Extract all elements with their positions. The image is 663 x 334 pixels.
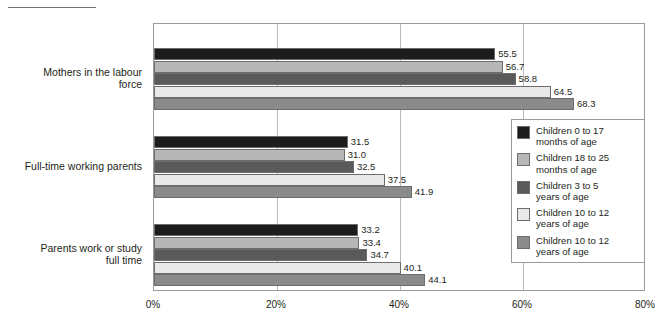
header-rule [8, 7, 96, 8]
bar-value-label: 55.5 [495, 49, 517, 59]
category-label: Mothers in the labourforce [2, 66, 142, 91]
bar-row: 40.1 [154, 262, 644, 274]
category-label-line: Parents work or study [2, 242, 142, 255]
bar-row: 44.1 [154, 274, 644, 286]
x-axis-tick-label: 40% [389, 299, 409, 310]
legend-label-line: Children 3 to 5 [536, 180, 598, 191]
bar-row: 58.8 [154, 73, 644, 85]
bar[interactable] [154, 161, 354, 173]
bar-value-label: 44.1 [425, 275, 447, 285]
bar[interactable] [154, 48, 495, 60]
category-label: Full-time working parents [2, 160, 142, 173]
bar-row: 64.5 [154, 86, 644, 98]
legend-label-line: months of age [536, 136, 604, 147]
bar-value-label: 33.2 [358, 225, 380, 235]
bar-value-label: 40.1 [401, 263, 423, 273]
legend-swatch-icon [517, 208, 530, 221]
legend-swatch-icon [517, 126, 530, 139]
legend-label: Children 18 to 25months of age [536, 152, 609, 174]
legend-label-line: Children 0 to 17 [536, 125, 604, 136]
legend-label-line: Children 10 to 12 [536, 235, 609, 246]
legend-item[interactable]: Children 10 to 12years of age [517, 207, 640, 229]
bar-value-label: 37.5 [385, 175, 407, 185]
category-label: Parents work or studyfull time [2, 242, 142, 267]
bar[interactable] [154, 224, 358, 236]
legend-label-line: months of age [536, 164, 609, 175]
category-label-line: Full-time working parents [2, 160, 142, 173]
x-axis: 0%20%40%60%80% [153, 293, 645, 317]
legend-item[interactable]: Children 0 to 17months of age [517, 125, 640, 147]
bar[interactable] [154, 174, 385, 186]
bar-value-label: 31.5 [348, 137, 370, 147]
legend-swatch-icon [517, 181, 530, 194]
legend-item[interactable]: Children 3 to 5years of age [517, 180, 640, 202]
bar[interactable] [154, 249, 367, 261]
bar[interactable] [154, 61, 503, 73]
legend-label-line: years of age [536, 246, 609, 257]
x-axis-tick-label: 80% [635, 299, 655, 310]
bar[interactable] [154, 86, 551, 98]
bar[interactable] [154, 149, 345, 161]
bar-value-label: 64.5 [551, 87, 573, 97]
legend-label-line: Children 10 to 12 [536, 207, 609, 218]
bar-value-label: 58.8 [516, 74, 538, 84]
legend-swatch-icon [517, 236, 530, 249]
bar-value-label: 31.0 [345, 150, 367, 160]
bar-value-label: 68.3 [574, 99, 596, 109]
x-axis-tick-label: 0% [146, 299, 160, 310]
category-label-line: force [2, 78, 142, 91]
bar[interactable] [154, 237, 359, 249]
legend-label: Children 10 to 12years of age [536, 235, 609, 257]
bar[interactable] [154, 274, 425, 286]
legend-label-line: Children 18 to 25 [536, 152, 609, 163]
bar-row: 56.7 [154, 61, 644, 73]
bar-row: 55.5 [154, 48, 644, 60]
bar[interactable] [154, 98, 574, 110]
legend-item[interactable]: Children 10 to 12years of age [517, 235, 640, 257]
x-axis-tick-label: 60% [512, 299, 532, 310]
category-label-line: full time [2, 254, 142, 267]
bar-value-label: 56.7 [503, 62, 525, 72]
legend: Children 0 to 17months of ageChildren 18… [511, 119, 645, 263]
bar[interactable] [154, 186, 412, 198]
bar[interactable] [154, 262, 401, 274]
bar-value-label: 32.5 [354, 162, 376, 172]
category-label-line: Mothers in the labour [2, 66, 142, 79]
legend-label-line: years of age [536, 218, 609, 229]
bar-value-label: 41.9 [412, 187, 434, 197]
legend-label: Children 10 to 12years of age [536, 207, 609, 229]
x-axis-tick-label: 20% [266, 299, 286, 310]
bar-group: 55.556.758.864.568.3 [154, 48, 644, 110]
legend-label: Children 3 to 5years of age [536, 180, 598, 202]
legend-label-line: years of age [536, 191, 598, 202]
legend-item[interactable]: Children 18 to 25months of age [517, 152, 640, 174]
bar-row: 68.3 [154, 98, 644, 110]
bar-value-label: 33.4 [359, 238, 381, 248]
bar-value-label: 34.7 [367, 250, 389, 260]
legend-label: Children 0 to 17months of age [536, 125, 604, 147]
bar-chart: Mothers in the labourforceFull-time work… [0, 0, 663, 334]
legend-swatch-icon [517, 153, 530, 166]
bar[interactable] [154, 136, 348, 148]
category-axis-labels: Mothers in the labourforceFull-time work… [0, 23, 148, 291]
bar[interactable] [154, 73, 516, 85]
